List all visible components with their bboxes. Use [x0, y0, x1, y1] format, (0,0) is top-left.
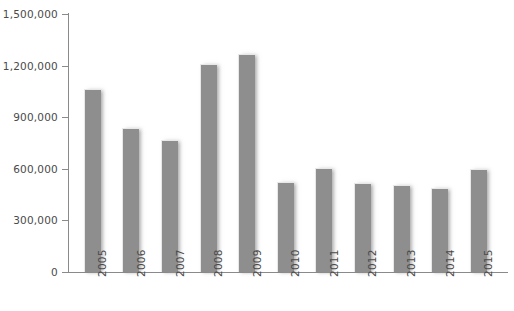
y-tick-label: 600,000: [13, 164, 58, 175]
x-tick-label: 2008: [213, 249, 224, 277]
y-tick-mark: [62, 272, 69, 273]
x-axis-line: [68, 272, 508, 273]
x-tick-label: 2011: [329, 249, 340, 277]
x-tick-label: 2014: [445, 249, 456, 277]
y-tick-label: 300,000: [13, 215, 58, 226]
x-tick-label: 2013: [406, 249, 417, 277]
y-tick-label: 900,000: [13, 112, 58, 123]
x-tick-label: 2005: [97, 249, 108, 277]
bar[interactable]: [84, 89, 101, 272]
x-tick-label: 2010: [290, 249, 301, 277]
plot-area: [68, 14, 508, 272]
x-tick-label: 2009: [252, 249, 263, 277]
y-tick-label: 1,200,000: [3, 61, 58, 72]
x-tick-label: 2007: [175, 249, 186, 277]
y-tick-label: 1,500,000: [3, 9, 58, 20]
y-tick-label: 0: [51, 267, 58, 278]
bar-chart: 0300,000600,000900,0001,200,0001,500,000…: [0, 0, 514, 311]
x-tick-label: 2012: [367, 249, 378, 277]
bar[interactable]: [238, 54, 255, 272]
x-tick-label: 2006: [136, 249, 147, 277]
bar[interactable]: [200, 64, 217, 272]
x-tick-label: 2015: [483, 249, 494, 277]
